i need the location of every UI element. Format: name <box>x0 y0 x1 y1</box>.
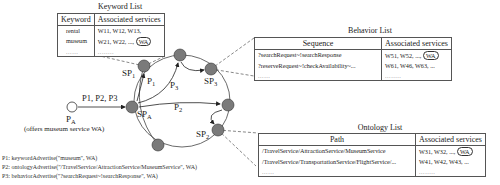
wa-highlight: WA <box>457 147 473 156</box>
label-p1: P1 <box>147 76 155 87</box>
ontology-list-title: Ontology List <box>340 123 420 132</box>
wa-highlight: WA <box>423 51 439 60</box>
node-sp3 <box>205 63 217 75</box>
label-p3: P3 <box>170 80 178 91</box>
legend-p3: P3: behaviorAdvertise("?searchRequest~!s… <box>2 173 158 179</box>
legend-p1: P1: keywordAdvertise("museum", WA) <box>2 155 97 161</box>
leader-behavior-list <box>211 38 254 76</box>
table-row: /TravelService/AttractionService/MuseumS… <box>259 146 486 158</box>
table-row: ?reserveRequest~!checkAvailability~... W… <box>255 61 452 71</box>
label-spa: SPA <box>137 109 152 120</box>
keyword-header: Keyword <box>58 14 95 26</box>
arrow-top-to-sp3 <box>181 62 204 71</box>
node-right <box>222 99 234 111</box>
table-row: ...... ........ <box>58 47 165 57</box>
pa-caption: (offers museum service WA) <box>24 125 104 133</box>
services-header: Associated services <box>94 14 164 26</box>
sequence-header: Sequence <box>255 38 382 50</box>
leader-keyword-list <box>100 56 165 66</box>
table-row: ...... ........ <box>255 71 452 81</box>
services-header: Associated services <box>416 134 486 146</box>
leader-ontology-list <box>218 130 258 166</box>
label-pa: PA <box>66 114 76 125</box>
table-row: ?searchRequest~!searchResponse W51, W52,… <box>255 50 452 62</box>
table-row: museum W21, W22, ..., WA <box>58 36 165 47</box>
node-bottom <box>152 139 164 151</box>
node-sp2 <box>212 124 224 136</box>
node-sp1 <box>138 60 150 72</box>
keyword-list: Keyword Associated services rental W11, … <box>57 13 165 57</box>
table-row: /TravelService/TransportationService/Fli… <box>259 157 486 167</box>
label-sp1: SP1 <box>122 68 135 79</box>
ontology-list: Path Associated services /TravelService/… <box>258 133 486 177</box>
label-sp3: SP3 <box>204 76 217 87</box>
behavior-list-title: Behavior List <box>330 26 410 35</box>
services-header: Associated services <box>382 38 452 50</box>
table-row: ...... ........ <box>259 167 486 177</box>
behavior-list: Sequence Associated services ?searchRequ… <box>254 37 452 81</box>
label-p2: P2 <box>174 102 182 113</box>
node-top <box>174 49 186 61</box>
node-pa <box>67 102 77 112</box>
table-row: rental W11, W12, W13, <box>58 26 165 36</box>
label-pa-to-spa: P1, P2, P3 <box>82 93 117 103</box>
legend-p2: P2: ontologyAdvertise("/TravelService/At… <box>2 164 197 170</box>
label-sp2: SP2 <box>196 129 209 140</box>
arrow-right-to-sp2 <box>211 110 222 124</box>
wa-highlight: WA <box>136 37 152 46</box>
path-header: Path <box>259 134 416 146</box>
keyword-list-title: Keyword List <box>80 2 160 11</box>
